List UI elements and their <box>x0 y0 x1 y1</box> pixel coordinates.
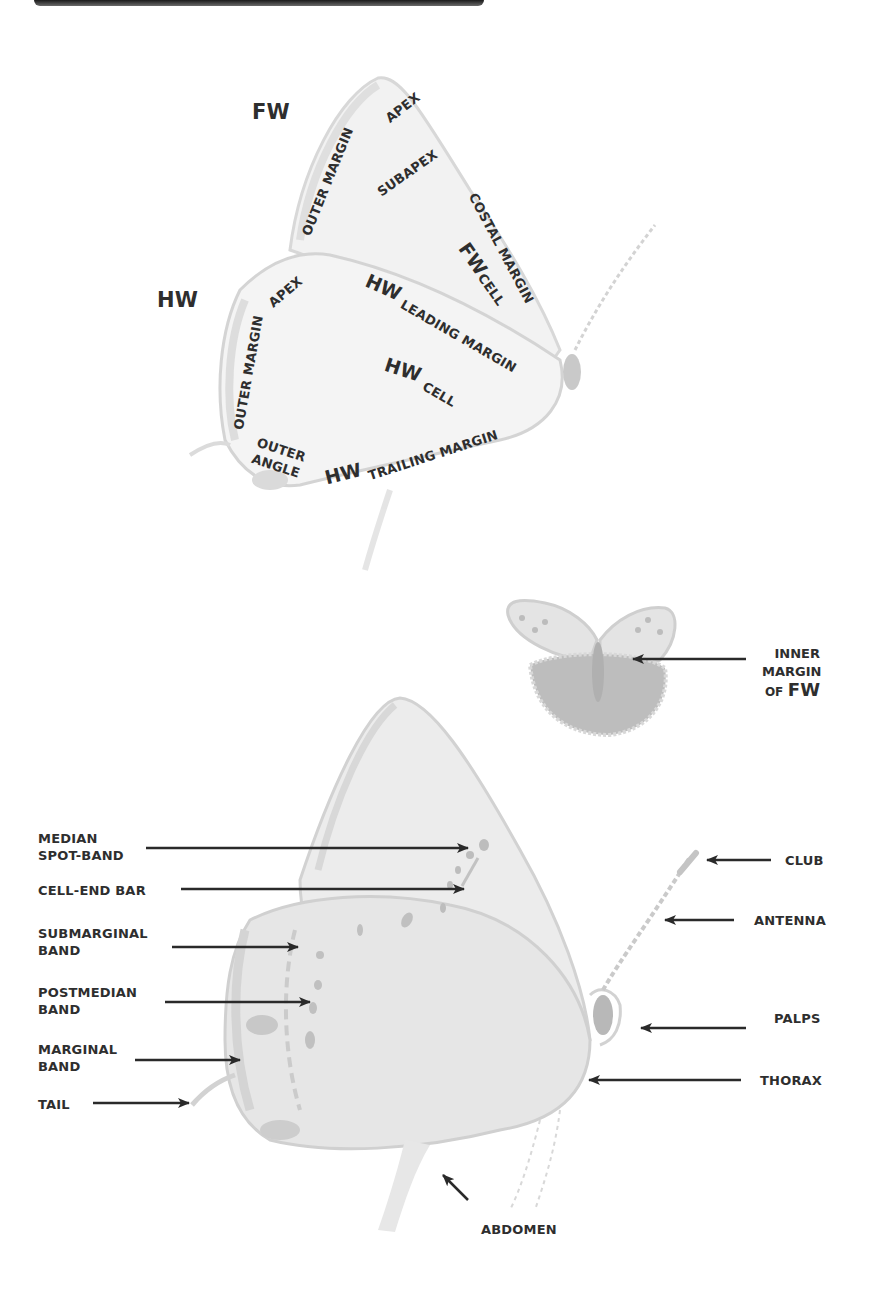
club-label: CLUB <box>785 852 824 869</box>
outer-angle-spot <box>260 1120 300 1140</box>
abdomen-label: ABDOMEN <box>481 1221 557 1238</box>
thorax-label: THORAX <box>760 1072 822 1089</box>
top-palps <box>563 354 581 390</box>
abdomen-arrow <box>443 1175 468 1200</box>
mid-left-forewing <box>508 601 597 660</box>
abdomen-shape <box>378 1140 430 1232</box>
tail-shape <box>192 1075 235 1105</box>
inner-label-line3: OF FW <box>762 681 820 701</box>
postmedian-band-label: POSTMEDIAN BAND <box>38 984 137 1018</box>
palps-label: PALPS <box>774 1010 821 1027</box>
inner-label-fw: FW <box>788 679 820 700</box>
fw-label: FW <box>252 104 290 121</box>
mid-body <box>592 642 604 702</box>
tail-label: TAIL <box>38 1096 70 1113</box>
inner-label-of: OF <box>765 685 783 699</box>
cell-end-bar-label: CELL-END BAR <box>38 882 146 899</box>
submarginal-band-label: SUBMARGINAL BAND <box>38 925 148 959</box>
inner-label-line1: INNER <box>762 645 820 663</box>
marginal-band-spot <box>246 1015 278 1035</box>
top-abdomen <box>365 490 390 570</box>
top-tail <box>190 443 230 455</box>
top-antenna <box>575 225 655 350</box>
median-spot-band-label: MEDIAN SPOT-BAND <box>38 830 124 864</box>
diagram-canvas <box>0 0 874 1302</box>
antenna-shape <box>603 857 690 990</box>
marginal-band-label: MARGINAL BAND <box>38 1041 117 1075</box>
palps-shape <box>593 995 613 1035</box>
inner-margin-of-fw-label: INNER MARGIN OF FW <box>762 645 820 701</box>
bottom-butterfly-illustration <box>192 698 696 1232</box>
antenna-label: ANTENNA <box>754 912 826 929</box>
hw-label: HW <box>157 292 198 309</box>
middle-butterfly-illustration <box>508 601 675 735</box>
club-shape <box>680 853 696 872</box>
